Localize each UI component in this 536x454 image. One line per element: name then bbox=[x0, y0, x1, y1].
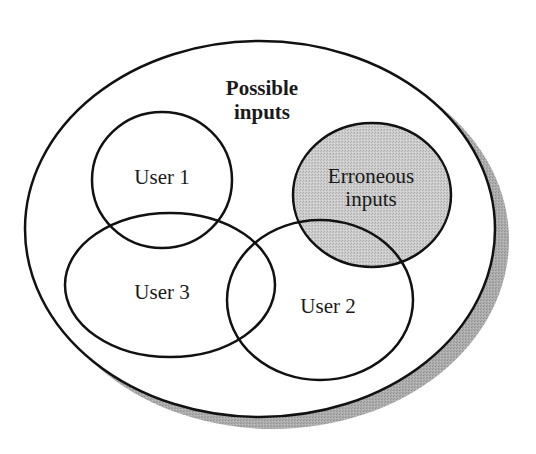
set-label-user-3: User 3 bbox=[134, 281, 189, 304]
universe-label-line1: Possible bbox=[226, 76, 298, 100]
venn-diagram: Possible inputs User 1 User 3 User 2 Err… bbox=[0, 0, 536, 454]
set-label-user-1: User 1 bbox=[134, 166, 189, 189]
set-label-user-2: User 2 bbox=[300, 295, 355, 318]
set-label-erroneous-inputs: Erroneous inputs bbox=[328, 165, 414, 211]
erroneous-label-line2: inputs bbox=[328, 188, 414, 211]
universe-label: Possible inputs bbox=[226, 76, 298, 124]
venn-diagram-svg bbox=[0, 0, 536, 454]
universe-label-line2: inputs bbox=[226, 100, 298, 124]
erroneous-label-line1: Erroneous bbox=[328, 165, 414, 188]
